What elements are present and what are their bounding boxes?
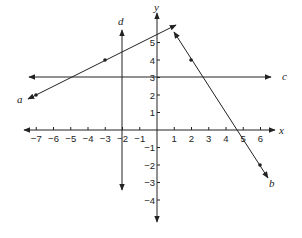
y-tick-label: 5 bbox=[150, 37, 155, 48]
x-tick-label: −6 bbox=[48, 133, 59, 144]
coordinate-plane: x −7−6−5−4−3−2−1123456 y 54321−1−2−3−4 c… bbox=[0, 0, 302, 238]
y-ticks: 54321−1−2−3−4 bbox=[144, 37, 160, 206]
x-tick-label: 3 bbox=[206, 133, 211, 144]
y-tick-label: −1 bbox=[144, 142, 155, 153]
x-tick-label: −4 bbox=[83, 133, 94, 144]
y-tick-label: 1 bbox=[150, 107, 155, 118]
point-a-2 bbox=[103, 58, 107, 62]
point-b-1 bbox=[189, 58, 193, 62]
y-tick-label: 4 bbox=[150, 55, 155, 66]
line-c-label: c bbox=[282, 70, 287, 82]
point-a-1 bbox=[34, 93, 38, 97]
x-tick-label: 1 bbox=[172, 133, 177, 144]
line-d: d bbox=[118, 15, 124, 190]
y-axis-label: y bbox=[153, 1, 159, 13]
x-axis-label: x bbox=[278, 124, 284, 136]
line-b: b bbox=[174, 32, 275, 189]
line-b-label: b bbox=[269, 177, 275, 189]
y-tick-label: −4 bbox=[144, 195, 155, 206]
x-tick-label: 6 bbox=[258, 133, 263, 144]
line-a-label: a bbox=[17, 93, 23, 105]
x-tick-label: 2 bbox=[189, 133, 194, 144]
point-b-2 bbox=[258, 163, 262, 167]
y-tick-label: −3 bbox=[144, 177, 155, 188]
x-axis: x −7−6−5−4−3−2−1123456 bbox=[24, 124, 284, 144]
x-tick-label: −3 bbox=[100, 133, 111, 144]
line-c: c bbox=[29, 70, 287, 82]
y-tick-label: −2 bbox=[144, 160, 155, 171]
line-d-label: d bbox=[118, 15, 124, 27]
y-tick-label: 2 bbox=[150, 90, 155, 101]
x-tick-label: −7 bbox=[31, 133, 42, 144]
x-tick-label: −5 bbox=[65, 133, 76, 144]
x-tick-label: 4 bbox=[223, 133, 228, 144]
